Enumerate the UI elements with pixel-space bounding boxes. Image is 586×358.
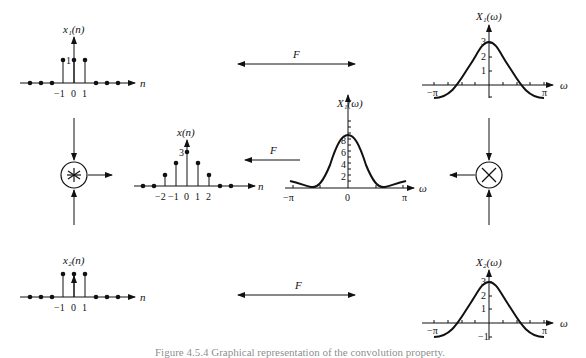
X-product-xtick: 0: [345, 192, 350, 203]
X1-top-xlabel: ω: [560, 79, 568, 91]
X1-top-xtick: π: [542, 87, 547, 98]
x-conv-ylabel: x(n): [176, 126, 195, 139]
x2-tick: 0: [71, 302, 76, 313]
X-product-ylabel: X₁(ω): [336, 97, 363, 110]
X1-top-ytick: 2: [481, 51, 486, 62]
X-product-ytick: 8: [341, 135, 346, 146]
X-product-ytick: 2: [341, 171, 346, 182]
X1-top-ytick: 3: [481, 36, 486, 47]
x2-time-plot: x₂(n) n −1 0 1: [20, 254, 146, 313]
fourier-label: F: [269, 144, 277, 156]
X1-top-xtick: −π: [427, 87, 438, 98]
fourier-pair-arrow-bottom: F: [238, 279, 355, 295]
X2-xtick: π: [542, 325, 547, 336]
X2-ylabel: X₂(ω): [475, 256, 502, 269]
x-conv-tick: −2: [155, 191, 166, 202]
x1-tick: 0: [71, 88, 76, 99]
x-conv-value-label: 3: [179, 147, 184, 158]
x-conv-tick: −1: [168, 191, 179, 202]
X-product-ytick: 6: [341, 147, 346, 158]
X2-xlabel: ω: [560, 317, 568, 329]
fourier-arrow-middle: F: [245, 144, 300, 160]
x2-tick: 1: [82, 302, 87, 313]
x2-ylabel: x₂(n): [62, 254, 85, 267]
X1-top-ytick: 1: [481, 65, 486, 76]
multiplication-operator: [450, 118, 502, 225]
X2-ytick: 2: [481, 290, 486, 301]
X2-freq-plot: X₂(ω) ω −1 1 2 3 −π π: [422, 256, 568, 342]
X1-top-ylabel: X₁(ω): [475, 10, 502, 23]
X-product-ytick: 4: [341, 159, 346, 170]
x1-ylabel: x₁(n): [62, 23, 85, 36]
X-product-freq-plot: X₁(ω) ω 2 4 6 8 −π 0 π: [283, 95, 427, 203]
x1-value-label: 1: [66, 55, 71, 66]
x1-tick: −1: [54, 88, 65, 99]
x1-tick: 1: [82, 88, 87, 99]
convolution-property-diagram: x₁(n) n 1 −1 0 1 F X₁(ω) ω 1 2 3 −π π: [0, 0, 586, 358]
figure-caption: Figure 4.5.4 Graphical representation of…: [155, 346, 445, 358]
x1-time-plot: x₁(n) n 1 −1 0 1: [20, 23, 146, 99]
x-conv-time-plot: x(n) n 3 −2 −1 0 1 2: [134, 126, 264, 202]
X2-ytick: 1: [481, 303, 486, 314]
X-product-xtick: −π: [283, 192, 294, 203]
x1-xlabel: n: [140, 77, 146, 89]
x-conv-tick: 0: [184, 191, 189, 202]
fourier-label: F: [292, 48, 300, 60]
x-conv-tick: 1: [195, 191, 200, 202]
X-product-xlabel: ω: [419, 182, 427, 194]
X2-ytick: 3: [481, 276, 486, 287]
fourier-label: F: [294, 279, 302, 291]
X-product-xtick: π: [402, 192, 407, 203]
x-conv-xlabel: n: [258, 180, 264, 192]
X1-freq-plot-top: X₁(ω) ω 1 2 3 −π π: [422, 10, 568, 98]
convolution-operator: [61, 118, 112, 225]
fourier-pair-arrow-top: F: [238, 48, 355, 64]
x2-xlabel: n: [140, 291, 146, 303]
x2-tick: −1: [54, 302, 65, 313]
X2-xtick: −π: [427, 325, 438, 336]
X2-ytick: −1: [478, 331, 489, 342]
x-conv-tick: 2: [206, 191, 211, 202]
